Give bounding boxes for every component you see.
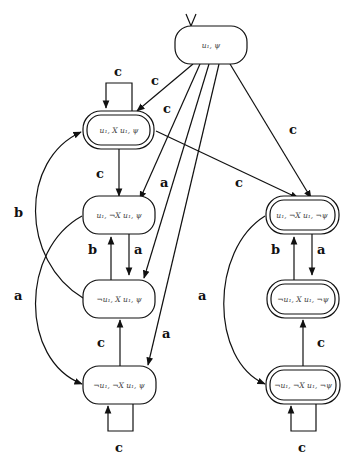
label-a-n5-n7: a bbox=[198, 288, 207, 303]
edge-n1-self bbox=[106, 83, 132, 111]
node-n0: u₁, ψ bbox=[175, 26, 247, 64]
edge-n3-n1 bbox=[35, 132, 83, 298]
label-a-n0-n4: a bbox=[162, 326, 171, 341]
label-a-n2-n4: a bbox=[14, 288, 23, 303]
node-n1: u₁, X u₁, ψ bbox=[83, 111, 154, 149]
label-a-n5-n6: a bbox=[317, 242, 326, 257]
node-n4: ¬u₁, ¬X u₁, ψ bbox=[83, 366, 156, 404]
label-c-n1-n5: c bbox=[235, 175, 243, 190]
label-c-n0-n1: c bbox=[151, 73, 159, 88]
edge-n5-n7 bbox=[224, 216, 265, 384]
edge-n2-n4 bbox=[36, 216, 83, 384]
label-c-n7-n6: c bbox=[317, 335, 325, 350]
svg-text:¬u₁, X u₁, ψ: ¬u₁, X u₁, ψ bbox=[96, 295, 141, 304]
label-c-n1-n2: c bbox=[96, 166, 104, 181]
svg-text:u₁, ψ: u₁, ψ bbox=[202, 41, 221, 50]
svg-text:u₁, ¬X u₁, ¬ψ: u₁, ¬X u₁, ¬ψ bbox=[276, 211, 328, 220]
node-n2: u₁, ¬X u₁, ψ bbox=[83, 196, 155, 234]
label-c-n0-n5: c bbox=[289, 122, 297, 137]
label-c-n4-n3: c bbox=[97, 335, 105, 350]
svg-text:¬u₁, ¬X u₁, ¬ψ: ¬u₁, ¬X u₁, ¬ψ bbox=[274, 381, 332, 390]
edge-n0-n4 bbox=[148, 64, 219, 365]
label-a-n0-n3: a bbox=[160, 175, 169, 190]
label-b-n6-n5: b bbox=[271, 242, 280, 257]
label-b-n3-n2: b bbox=[88, 242, 97, 257]
label-c-n1-self: c bbox=[114, 64, 122, 79]
label-b-n3-n1: b bbox=[14, 205, 23, 220]
node-n6: ¬u₁, X u₁, ¬ψ bbox=[267, 280, 339, 318]
label-a-n2-n3: a bbox=[134, 242, 143, 257]
svg-text:¬u₁, ¬X u₁, ψ: ¬u₁, ¬X u₁, ψ bbox=[93, 381, 145, 390]
edge-n7-self bbox=[291, 403, 316, 431]
automaton-diagram: u₁, ψ u₁, X u₁, ψ u₁, ¬X u₁, ψ ¬u₁, X u₁… bbox=[0, 0, 356, 464]
node-n7: ¬u₁, ¬X u₁, ¬ψ bbox=[266, 366, 340, 404]
node-n5: u₁, ¬X u₁, ¬ψ bbox=[266, 196, 339, 234]
label-c-n0-n2: c bbox=[163, 101, 171, 116]
svg-text:u₁, X u₁, ψ: u₁, X u₁, ψ bbox=[100, 126, 139, 135]
svg-text:¬u₁, X u₁, ¬ψ: ¬u₁, X u₁, ¬ψ bbox=[277, 295, 329, 304]
initial-arrow bbox=[186, 14, 196, 26]
label-c-n4-self: c bbox=[115, 440, 123, 455]
node-n3: ¬u₁, X u₁, ψ bbox=[83, 280, 155, 318]
label-c-n7-self: c bbox=[298, 440, 306, 455]
svg-text:u₁, ¬X u₁, ψ: u₁, ¬X u₁, ψ bbox=[96, 211, 141, 220]
edge-n4-self bbox=[108, 403, 133, 431]
